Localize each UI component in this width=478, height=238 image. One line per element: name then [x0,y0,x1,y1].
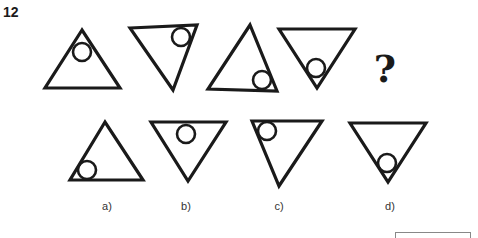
sequence-figure-2 [130,25,197,90]
circle-icon [253,71,271,89]
triangle-icon [151,122,226,181]
figures-canvas: ? [0,0,478,238]
triangle-icon [130,25,197,90]
triangle-icon [70,122,143,180]
circle-icon [78,161,96,179]
circle-icon [73,43,91,61]
sequence-figure-4 [279,29,355,88]
option-c-figure[interactable] [252,121,322,186]
circle-icon [258,122,276,140]
sequence-figure-3 [208,25,277,91]
option-c-label[interactable]: c) [274,200,283,212]
triangle-icon [252,121,322,186]
option-d-figure[interactable] [350,123,426,182]
option-b-figure[interactable] [151,122,226,181]
sequence-figure-1 [45,30,120,88]
option-a-figure[interactable] [70,122,143,180]
triangle-icon [45,30,120,88]
triangle-icon [208,25,277,91]
question-mark-icon: ? [374,46,396,91]
option-d-label[interactable]: d) [385,200,395,212]
option-a-label[interactable]: a) [102,200,112,212]
circle-icon [307,59,325,77]
circle-icon [378,154,396,172]
option-b-label[interactable]: b) [181,200,191,212]
options-row [70,121,426,186]
circle-icon [172,28,190,46]
circle-icon [177,125,195,143]
sequence-row [45,25,355,91]
answer-box[interactable] [395,232,471,238]
